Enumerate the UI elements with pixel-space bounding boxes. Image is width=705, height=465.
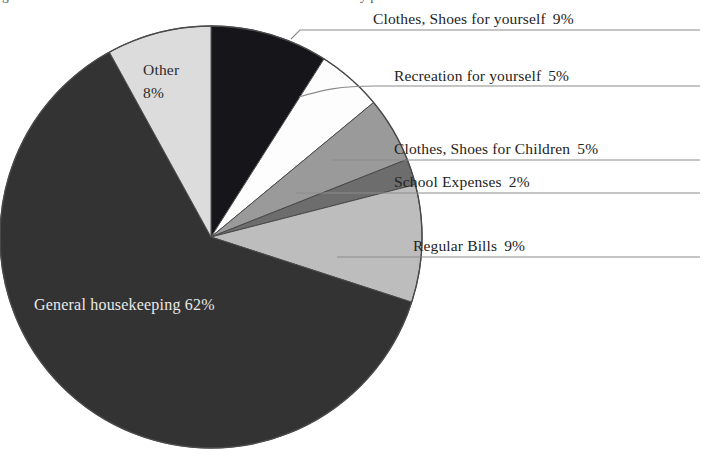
callout-recreation-yourself: Recreation for yourself5% (394, 67, 569, 85)
callout-pct-clothes-shoes-children: 5% (577, 140, 598, 157)
slice-label-general-housekeeping: General housekeeping 62% (34, 296, 215, 314)
callout-regular-bills: Regular Bills9% (413, 237, 525, 255)
callout-pct-regular-bills: 9% (504, 237, 525, 254)
pie-chart-graphic (0, 0, 705, 465)
callout-clothes-shoes-children: Clothes, Shoes for Children5% (394, 140, 598, 158)
pie-slices (0, 26, 422, 448)
callout-text-clothes-shoes-children: Clothes, Shoes for Children (394, 140, 570, 157)
slice-label-other: Other 8% (143, 58, 179, 104)
slice-label-other-line1: Other (143, 58, 179, 81)
callout-pct-school-expenses: 2% (509, 173, 530, 190)
pie-chart-page: g y p General housekeeping 62% Other 8% … (0, 0, 705, 465)
callout-text-recreation-yourself: Recreation for yourself (394, 67, 541, 84)
callout-text-regular-bills: Regular Bills (413, 237, 497, 254)
callout-school-expenses: School Expenses2% (394, 173, 530, 191)
callout-text-clothes-shoes-yourself: Clothes, Shoes for yourself (373, 10, 546, 27)
callout-pct-clothes-shoes-yourself: 9% (553, 10, 574, 27)
callout-clothes-shoes-yourself: Clothes, Shoes for yourself9% (373, 10, 574, 28)
callout-pct-recreation-yourself: 5% (548, 67, 569, 84)
slice-label-other-line2: 8% (143, 81, 179, 104)
callout-text-school-expenses: School Expenses (394, 173, 502, 190)
